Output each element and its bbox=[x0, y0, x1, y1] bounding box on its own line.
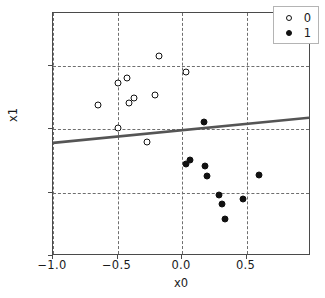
data-point-class-1 bbox=[256, 172, 263, 179]
data-point-class-0 bbox=[123, 74, 130, 81]
data-point-class-1 bbox=[221, 216, 228, 223]
x-tick-label: −1.0 bbox=[37, 258, 66, 272]
y-tick-mark bbox=[48, 128, 52, 129]
scatter-plot-figure: −1.0−0.50.00.5 0.50.0−0.5−1.0 x0 x1 0 1 bbox=[0, 0, 325, 298]
data-point-class-0 bbox=[131, 94, 138, 101]
data-point-class-1 bbox=[200, 118, 207, 125]
plot-axes-frame bbox=[52, 12, 310, 255]
figure-root: −1.0−0.50.00.5 0.50.0−0.5−1.0 x0 x1 0 1 bbox=[0, 0, 325, 298]
data-point-class-1 bbox=[203, 173, 210, 180]
data-point-class-0 bbox=[95, 102, 102, 109]
data-point-class-0 bbox=[155, 53, 162, 60]
plot-data-area bbox=[53, 13, 309, 254]
y-axis-label: x1 bbox=[6, 108, 20, 122]
data-point-class-0 bbox=[182, 69, 189, 76]
data-point-class-1 bbox=[239, 196, 246, 203]
decision-boundary-line bbox=[53, 13, 309, 254]
data-point-class-1 bbox=[186, 156, 193, 163]
y-tick-mark bbox=[48, 255, 52, 256]
legend-label-class-0: 0 bbox=[299, 11, 311, 25]
legend-entry-class-1: 1 bbox=[279, 25, 311, 40]
data-point-class-0 bbox=[144, 139, 151, 146]
open-circle-icon bbox=[279, 15, 299, 21]
data-point-class-1 bbox=[216, 192, 223, 199]
y-tick-mark bbox=[48, 65, 52, 66]
x-tick-label: −0.5 bbox=[102, 258, 131, 272]
x-tick-label: 0.0 bbox=[171, 258, 190, 272]
data-point-class-0 bbox=[151, 92, 158, 99]
x-axis-label: x0 bbox=[52, 276, 310, 290]
legend: 0 1 bbox=[273, 6, 319, 44]
x-tick-label: 0.5 bbox=[236, 258, 255, 272]
legend-entry-class-0: 0 bbox=[279, 10, 311, 25]
data-point-class-0 bbox=[114, 79, 121, 86]
data-point-class-0 bbox=[114, 125, 121, 132]
data-point-class-1 bbox=[202, 163, 209, 170]
y-tick-mark bbox=[48, 192, 52, 193]
filled-circle-icon bbox=[279, 30, 299, 36]
legend-label-class-1: 1 bbox=[299, 26, 311, 40]
data-point-class-1 bbox=[218, 201, 225, 208]
